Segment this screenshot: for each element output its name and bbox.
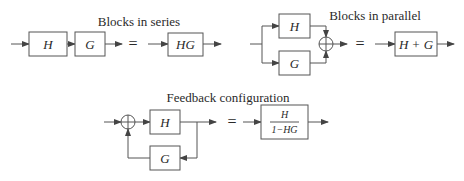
feedback-block-g-label: G (160, 151, 170, 166)
parallel-block-h-label: H (289, 19, 300, 34)
parallel-top-sum-arrow (310, 26, 326, 37)
parallel-block-g-label: G (290, 56, 300, 71)
feedback-result-numerator: H (280, 109, 289, 120)
feedback-summing-junction-icon (121, 115, 135, 129)
series-equals: = (128, 35, 137, 52)
feedback-result-denominator: 1−HG (271, 124, 297, 135)
feedback-to-sum-arrow (128, 129, 150, 158)
summing-junction-icon (319, 37, 333, 51)
parallel-bottom-sum-arrow (310, 51, 326, 63)
series-title: Blocks in series (98, 14, 180, 29)
feedback-block-h-label: H (159, 115, 170, 130)
series-diagram: Blocks in series H G = HG (11, 14, 221, 56)
parallel-equals: = (355, 35, 364, 52)
series-result-label: HG (175, 37, 195, 52)
block-diagram-canvas: Blocks in series H G = HG Blocks in para… (0, 0, 464, 181)
feedback-return-arrow (180, 122, 197, 158)
feedback-diagram: Feedback configuration H G = H 1−HG (104, 90, 328, 170)
parallel-result-label: H + G (398, 37, 434, 52)
series-block-h-label: H (42, 37, 53, 52)
series-block-g-label: G (85, 37, 95, 52)
feedback-equals: = (227, 113, 236, 130)
feedback-title: Feedback configuration (166, 90, 290, 105)
parallel-title: Blocks in parallel (329, 8, 421, 23)
parallel-diagram: Blocks in parallel H G = H + G (250, 8, 454, 75)
